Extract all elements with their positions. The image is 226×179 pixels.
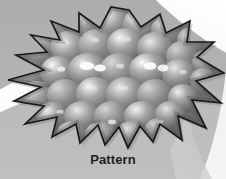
pattern-illustration <box>0 0 226 179</box>
figure-container: Pattern <box>0 0 226 179</box>
